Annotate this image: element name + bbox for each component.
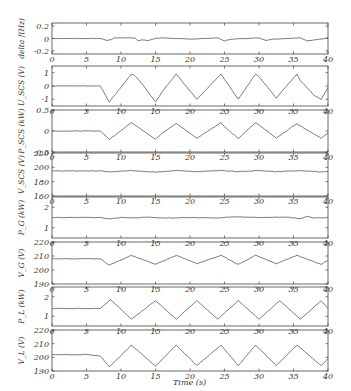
x-tick-label: 10 [116, 372, 126, 381]
x-tick-label: 20 [184, 285, 195, 294]
x-tick-label: 5 [84, 55, 89, 64]
y-tick-label: 0 [44, 82, 49, 91]
y-axis-label: V_G (V) [17, 249, 26, 278]
x-tick-label: 20 [184, 327, 195, 336]
y-tick-label: 0.2 [36, 22, 49, 31]
x-tick-label: 30 [254, 372, 264, 381]
panel-delta_f: 0510152025303540-0.200.2delta f(Hz) [17, 18, 333, 64]
panel-P_SCS: 0510152025303540-0.500.5P_SCS (kW) [17, 106, 333, 162]
y-tick-label: 1 [44, 312, 49, 321]
y-tick-label: 2 [43, 293, 49, 302]
x-tick-label: 25 [218, 197, 229, 206]
y-tick-label: 0 [44, 127, 49, 136]
y-tick-label: 220 [33, 149, 49, 158]
x-tick-label: 0 [49, 372, 54, 381]
x-tick-label: 40 [322, 372, 333, 381]
panel-V_SCS: 0510152025303540160180200220V_SCS (V) [17, 149, 333, 206]
y-axis-label: P_SCS (kW) [17, 108, 26, 154]
stacked-time-series-chart: 0510152025303540-0.200.2delta f(Hz)05101… [0, 0, 351, 391]
x-tick-label: 40 [322, 153, 333, 162]
y-axis-label: P_G (kW) [17, 200, 26, 236]
chart-canvas: 0510152025303540-0.200.2delta f(Hz)05101… [0, 0, 351, 391]
x-tick-label: 15 [150, 55, 160, 64]
x-tick-label: 20 [184, 197, 195, 206]
plot-frame [52, 330, 328, 371]
y-tick-label: 2 [43, 203, 49, 212]
x-tick-label: 25 [218, 327, 229, 336]
y-tick-label: 0 [44, 35, 49, 44]
series-line-V_L [52, 345, 328, 367]
panel-U_SCS: 0510152025303540-101U_SCS (V) [17, 66, 333, 116]
series-line-P_G [52, 216, 328, 219]
x-tick-label: 20 [184, 239, 195, 248]
x-tick-label: 25 [218, 107, 229, 116]
x-axis-label: Time (s) [173, 378, 206, 387]
series-line-P_L [52, 300, 328, 320]
y-tick-label: 220 [33, 326, 49, 335]
x-tick-label: 40 [322, 55, 333, 64]
x-tick-label: 35 [288, 55, 298, 64]
x-tick-label: 25 [218, 372, 229, 381]
y-tick-label: 1 [44, 224, 49, 233]
series-line-U_SCS [52, 74, 328, 102]
y-axis-label: P_L (kW) [17, 289, 26, 324]
series-line-V_G [52, 255, 328, 265]
x-tick-label: 25 [218, 239, 229, 248]
y-axis-label: V_L (V) [17, 337, 26, 365]
y-tick-label: 210 [33, 340, 49, 349]
series-line-delta_f [52, 38, 328, 41]
x-tick-label: 40 [322, 285, 333, 294]
x-tick-label: 40 [322, 327, 333, 336]
x-tick-label: 25 [218, 55, 229, 64]
x-tick-label: 15 [150, 372, 160, 381]
x-tick-label: 10 [116, 55, 126, 64]
y-tick-label: 210 [33, 252, 49, 261]
y-tick-label: 200 [33, 353, 49, 362]
y-tick-label: -1 [41, 95, 49, 104]
y-tick-label: 0.5 [36, 106, 49, 115]
y-tick-label: 190 [34, 367, 49, 376]
x-tick-label: 25 [218, 153, 229, 162]
x-tick-label: 40 [322, 239, 333, 248]
x-tick-label: 40 [322, 107, 333, 116]
y-tick-label: 200 [33, 266, 49, 275]
x-tick-label: 30 [254, 55, 264, 64]
x-tick-label: 25 [218, 285, 229, 294]
y-tick-label: 200 [33, 163, 49, 172]
y-tick-label: -0.2 [34, 47, 49, 56]
y-tick-label: 220 [33, 238, 49, 247]
y-tick-label: 190 [34, 280, 49, 289]
x-tick-label: 20 [184, 55, 195, 64]
panel-V_L: 0510152025303540190200210220V_L (V) [17, 326, 333, 381]
x-tick-label: 40 [322, 197, 333, 206]
panel-V_G: 0510152025303540190200210220V_G (V) [17, 238, 333, 294]
x-tick-label: 0 [49, 55, 54, 64]
y-tick-label: 1 [44, 69, 49, 78]
x-tick-label: 20 [184, 153, 195, 162]
x-tick-label: 5 [84, 372, 89, 381]
y-axis-label: U_SCS (V) [17, 66, 26, 106]
panel-P_L: 051015202530354012P_L (kW) [17, 287, 333, 336]
x-tick-label: 35 [288, 372, 298, 381]
y-axis-label: delta f(Hz) [17, 18, 26, 59]
y-axis-label: V_SCS (V) [17, 155, 26, 194]
y-tick-label: 180 [34, 178, 49, 187]
x-tick-label: 20 [184, 107, 195, 116]
series-line-P_SCS [52, 123, 328, 140]
y-tick-label: 160 [34, 192, 49, 201]
series-line-V_SCS [52, 170, 328, 172]
plot-frame [52, 242, 328, 284]
panel-P_G: 051015202530354012P_G (kW) [17, 197, 333, 248]
